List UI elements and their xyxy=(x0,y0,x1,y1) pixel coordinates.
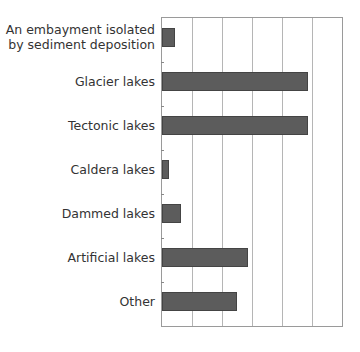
category-label: Dammed lakes xyxy=(62,206,155,221)
category-label: Glacier lakes xyxy=(75,74,155,89)
category-label: Tectonic lakes xyxy=(68,118,155,133)
bar xyxy=(162,28,175,47)
category-label: An embayment isolatedby sediment deposit… xyxy=(6,22,155,52)
bar xyxy=(162,292,237,311)
gridline xyxy=(312,18,313,326)
category-label: Other xyxy=(120,294,156,309)
gridline xyxy=(282,18,283,326)
axis-tick xyxy=(161,194,164,195)
axis-tick xyxy=(161,106,164,107)
bar xyxy=(162,204,181,223)
axis-tick xyxy=(161,62,164,63)
category-label: Artificial lakes xyxy=(67,250,155,265)
gridline xyxy=(222,18,223,326)
gridline xyxy=(192,18,193,326)
bar xyxy=(162,116,308,135)
bar xyxy=(162,72,308,91)
plot-area xyxy=(161,17,343,327)
axis-tick xyxy=(161,238,164,239)
category-label: Caldera lakes xyxy=(71,162,155,177)
axis-tick xyxy=(161,282,164,283)
bar xyxy=(162,248,248,267)
axis-tick xyxy=(161,150,164,151)
gridline xyxy=(252,18,253,326)
bar xyxy=(162,160,169,179)
